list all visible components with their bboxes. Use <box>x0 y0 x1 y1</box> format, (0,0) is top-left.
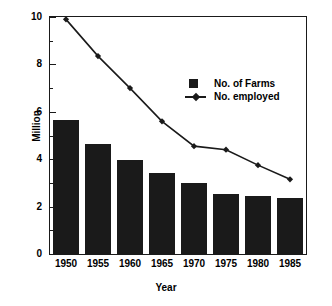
y-tick-label-8: 8 <box>22 59 42 69</box>
legend-label-farms: No. of Farms <box>214 77 275 90</box>
x-tick-1965 <box>162 249 163 254</box>
x-tick-1975 <box>226 249 227 254</box>
plot-area <box>49 16 307 255</box>
y-minor-tick-5 <box>50 136 53 137</box>
line-marker-1985 <box>287 176 293 182</box>
filled-square-icon <box>185 77 207 90</box>
y-tick-6 <box>50 112 56 113</box>
x-tick-1980 <box>258 249 259 254</box>
y-minor-tick-3 <box>50 183 53 184</box>
chart-figure: Million Year 0246810 1950195519601965197… <box>0 0 332 306</box>
x-tick-1950 <box>66 249 67 254</box>
y-tick-label-10: 10 <box>22 12 42 22</box>
line-series <box>50 17 306 254</box>
y-tick-2 <box>50 207 56 208</box>
y-tick-8 <box>50 64 56 65</box>
y-tick-label-0: 0 <box>22 249 42 259</box>
legend-item-farms: No. of Farms <box>185 77 280 90</box>
y-minor-tick-1 <box>50 230 53 231</box>
line-diamond-icon <box>185 90 207 103</box>
y-tick-label-6: 6 <box>22 107 42 117</box>
legend-item-employed: No. employed <box>185 90 280 103</box>
x-tick-1970 <box>194 249 195 254</box>
y-minor-tick-9 <box>50 41 53 42</box>
y-minor-tick-7 <box>50 88 53 89</box>
chart-legend: No. of Farms No. employed <box>185 77 280 103</box>
y-tick-label-4: 4 <box>22 154 42 164</box>
y-tick-label-2: 2 <box>22 202 42 212</box>
plot-canvas <box>50 17 306 254</box>
x-tick-1960 <box>130 249 131 254</box>
x-tick-1955 <box>98 249 99 254</box>
y-axis-title: Million <box>31 96 42 156</box>
x-tick-label-1985: 1985 <box>268 259 312 269</box>
y-tick-4 <box>50 159 56 160</box>
legend-label-employed: No. employed <box>214 90 280 103</box>
x-tick-1985 <box>290 249 291 254</box>
x-axis-title: Year <box>0 282 332 293</box>
line-marker-1975 <box>223 147 229 153</box>
line-marker-1980 <box>255 162 261 168</box>
y-tick-10 <box>50 17 56 18</box>
y-tick-0 <box>50 254 56 255</box>
